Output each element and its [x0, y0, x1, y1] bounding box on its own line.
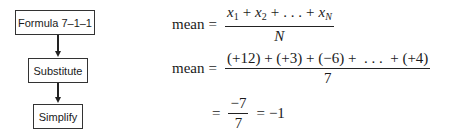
equation-mean-substituted: mean = (+12) + (+3) + (−6) + . . . + (+4…	[172, 50, 434, 87]
denominator: 7	[324, 69, 332, 87]
result-value: −1	[269, 105, 285, 122]
numerator: (+12) + (+3) + (−6) + . . . + (+4)	[225, 50, 430, 69]
step-substitute-label: Substitute	[34, 65, 83, 77]
step-simplify-label: Simplify	[39, 111, 78, 123]
fraction: (+12) + (+3) + (−6) + . . . + (+4) 7	[225, 50, 430, 87]
equals-sign-2: =	[256, 105, 264, 122]
equals-sign: =	[212, 105, 220, 122]
step-formula-label: Formula 7–1–1	[18, 17, 92, 29]
equals-sign: =	[208, 60, 216, 77]
step-simplify-box: Simplify	[33, 104, 83, 129]
denominator: 7	[235, 114, 243, 132]
mean-label: mean	[172, 60, 204, 77]
numerator: x1+x2+. . .+xN	[225, 4, 334, 27]
numerator: −7	[228, 95, 248, 114]
connector-line-2	[57, 83, 59, 98]
step-formula-box: Formula 7–1–1	[15, 10, 95, 35]
equals-sign: =	[208, 16, 216, 33]
connector-line-1	[57, 35, 59, 52]
equation-mean-formula: mean = x1+x2+. . .+xN N	[172, 4, 338, 45]
denominator: N	[274, 27, 284, 45]
arrow-down-icon	[55, 97, 61, 103]
step-substitute-box: Substitute	[28, 58, 88, 83]
equation-simplified: = −7 7 = −1	[208, 95, 285, 132]
fraction: −7 7	[228, 95, 248, 132]
mean-label: mean	[172, 16, 204, 33]
fraction: x1+x2+. . .+xN N	[225, 4, 334, 45]
arrow-down-icon	[55, 51, 61, 57]
